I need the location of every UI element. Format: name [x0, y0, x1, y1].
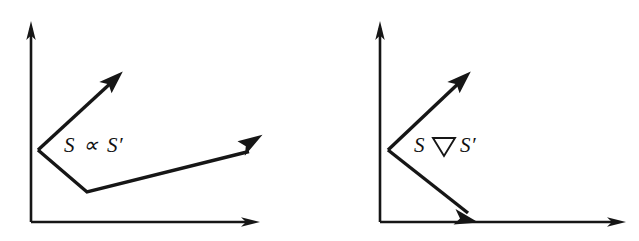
left-upper-vector-shaft — [38, 82, 113, 151]
right-panel-y-axis — [375, 21, 384, 222]
left-panel: S ∝ S′ — [26, 21, 262, 227]
right-panel-x-axis — [380, 217, 626, 226]
left-panel-x-axis — [31, 217, 260, 226]
right-label-operand-1: S — [414, 133, 425, 157]
left-label-operand-2: S′ — [107, 133, 123, 157]
left-panel-label: S ∝ S′ — [64, 133, 123, 157]
right-lower-vector — [388, 150, 479, 225]
right-upper-vector — [388, 72, 471, 151]
right-panel-label: S S′ — [414, 133, 476, 157]
vector-diagram-figure: S ∝ S′ S S′ — [0, 0, 639, 241]
proportional-to-icon: ∝ — [83, 133, 99, 157]
left-label-operand-1: S — [64, 133, 75, 157]
right-panel: S S′ — [375, 21, 626, 227]
right-lower-vector-shaft — [388, 150, 468, 213]
left-panel-y-axis — [26, 21, 35, 222]
right-label-operand-2: S′ — [460, 133, 476, 157]
nabla-down-triangle-icon — [433, 138, 455, 156]
